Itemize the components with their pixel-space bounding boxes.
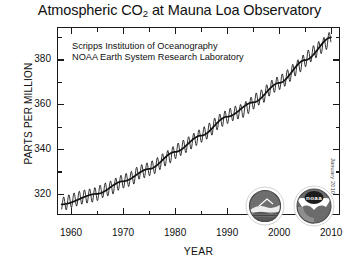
x-tick-label: 1970 [101,227,145,238]
x-major-tick-top [331,28,332,34]
x-tick-label: 1990 [205,227,249,238]
y-minor-tick-right [336,171,340,172]
y-major-tick [58,194,64,195]
y-minor-tick-right [336,127,340,128]
y-major-tick [58,149,64,150]
x-major-tick [227,208,228,214]
x-major-tick-top [123,28,124,34]
y-major-tick-right [333,104,339,105]
y-major-tick [58,104,64,105]
annotation-line-1: Scripps Institution of Oceanography [72,41,244,52]
noaa-logo: noaa [293,185,335,227]
x-tick-label: 1960 [49,227,93,238]
x-minor-tick-top [253,28,254,32]
x-minor-tick [149,211,150,215]
x-major-tick [175,208,176,214]
x-major-tick-top [279,28,280,34]
date-credit: January 2010 [330,158,336,194]
y-tick-label: 340 [7,143,51,154]
y-major-tick [58,59,64,60]
y-minor-tick [58,82,62,83]
x-major-tick-top [71,28,72,34]
y-minor-tick-right [336,37,340,38]
annotation-line-2: NOAA Earth System Research Laboratory [72,52,244,63]
x-tick-label: 2010 [309,227,353,238]
y-minor-tick [58,127,62,128]
x-minor-tick-top [97,28,98,32]
x-major-tick [123,208,124,214]
y-tick-label: 320 [7,188,51,199]
svg-text:noaa: noaa [306,194,322,201]
x-axis-label: YEAR [57,246,340,257]
x-major-tick-top [227,28,228,34]
y-tick-label: 360 [7,98,51,109]
annotation-block: Scripps Institution of Oceanography NOAA… [72,41,244,64]
x-minor-tick-top [149,28,150,32]
y-minor-tick-right [336,82,340,83]
y-minor-tick [58,171,62,172]
x-major-tick-top [175,28,176,34]
x-minor-tick [97,211,98,215]
y-major-tick-right [333,59,339,60]
x-minor-tick-top [305,28,306,32]
x-minor-tick-top [201,28,202,32]
chart-title-part1: Atmospheric CO [38,2,143,18]
x-minor-tick [201,211,202,215]
y-minor-tick [58,37,62,38]
x-major-tick [71,208,72,214]
x-tick-label: 1980 [153,227,197,238]
chart-title-part2: at Mauna Loa Observatory [148,2,321,18]
scripps-logo [245,186,285,226]
chart-title: Atmospheric CO2 at Mauna Loa Observatory [0,2,359,19]
y-major-tick-right [333,149,339,150]
y-tick-label: 380 [7,53,51,64]
chart-canvas: Atmospheric CO2 at Mauna Loa Observatory… [0,0,359,272]
x-tick-label: 2000 [257,227,301,238]
